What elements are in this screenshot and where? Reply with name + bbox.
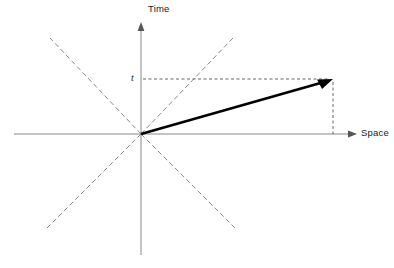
lightcone-lower-right-line — [141, 134, 235, 228]
worldline-group — [141, 79, 333, 134]
lightcone-lower-left-line — [47, 134, 141, 228]
time-coordinate-label: t — [131, 72, 134, 83]
time-axis-arrowhead — [138, 22, 145, 31]
lightcone-upper-left-line — [50, 38, 141, 134]
worldline-arrowhead — [317, 79, 333, 89]
diagram-canvas — [0, 0, 394, 268]
time-axis-label: Time — [148, 3, 170, 14]
spacetime-diagram-figure: Time Space t — [0, 0, 394, 268]
space-axis-arrowhead — [348, 131, 357, 138]
space-axis-label: Space — [361, 127, 389, 138]
worldline-vector — [141, 82, 324, 134]
axes-group — [14, 22, 357, 255]
